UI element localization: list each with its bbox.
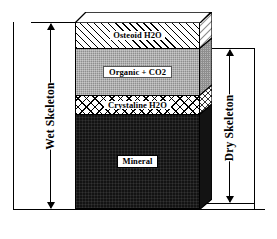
dry-skeleton-arrow-head-top <box>226 49 234 56</box>
layer-osteoid-h2o-label: Osteoid H2O <box>110 31 165 40</box>
layer-organic-co2-label: Organic + CO2 <box>103 66 172 79</box>
layer-organic-co2: Organic + CO2 <box>76 49 199 96</box>
baseline-rule <box>13 209 265 210</box>
wet-skeleton-arrow-head-bottom <box>47 202 55 209</box>
wet-skeleton-label: Wet Skeleton <box>42 82 58 149</box>
stacked-bar: Osteoid H2O Organic + CO2 Crystaline H2O… <box>75 22 200 209</box>
dry-skeleton-label: Dry Skeleton <box>221 95 237 162</box>
layer-crystaline-h2o: Crystaline H2O <box>76 96 199 115</box>
layer-mineral-label: Mineral <box>117 155 159 168</box>
dry-skeleton-bracket-right <box>254 48 255 210</box>
layer-mineral: Mineral <box>76 115 199 208</box>
wet-skeleton-arrow-head-top <box>47 23 55 30</box>
dry-skeleton-arrow-head-bottom <box>226 196 234 203</box>
diagram-canvas: Osteoid H2O Organic + CO2 Crystaline H2O… <box>0 0 277 239</box>
bar-top-face-3d <box>75 12 211 23</box>
bar-right-face-3d <box>199 12 212 210</box>
layer-crystaline-h2o-label: Crystaline H2O <box>104 101 171 110</box>
wet-skeleton-bracket-left <box>13 22 14 210</box>
layer-osteoid-h2o: Osteoid H2O <box>76 23 199 49</box>
